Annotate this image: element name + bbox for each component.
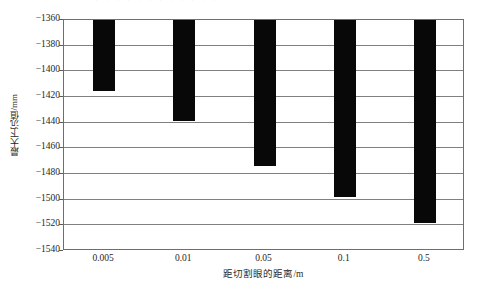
x-tick-label: 0.05 bbox=[229, 253, 299, 264]
chart-figure: · · · · · · · · · · · · 最大下沉值/mm −1360−1… bbox=[0, 0, 481, 289]
y-tick-label: −1380 bbox=[16, 40, 60, 50]
y-tick-label: −1360 bbox=[16, 14, 60, 24]
x-tick-label: 0.5 bbox=[389, 253, 459, 264]
y-tick-label: −1440 bbox=[16, 117, 60, 127]
gridline bbox=[64, 224, 463, 225]
bar bbox=[254, 20, 276, 166]
gridline bbox=[64, 199, 463, 200]
bar bbox=[334, 20, 356, 197]
y-tick-mark bbox=[59, 250, 63, 251]
x-axis-tick-labels: 0.0050.010.050.10.5 bbox=[63, 253, 464, 267]
bar bbox=[414, 20, 436, 223]
x-tick-label: 0.01 bbox=[148, 253, 218, 264]
x-tick-label: 0.1 bbox=[309, 253, 379, 264]
y-tick-label: −1540 bbox=[16, 245, 60, 255]
gridline bbox=[64, 173, 463, 174]
y-axis-tick-labels: −1360−1380−1400−1420−1440−1460−1480−1500… bbox=[14, 0, 60, 289]
x-axis-title: 距切割眼的距离/m bbox=[63, 268, 464, 280]
x-tick-label: 0.005 bbox=[68, 253, 138, 264]
plot-area bbox=[63, 19, 464, 250]
y-tick-label: −1460 bbox=[16, 142, 60, 152]
y-tick-label: −1400 bbox=[16, 65, 60, 75]
y-tick-label: −1520 bbox=[16, 219, 60, 229]
y-tick-label: −1500 bbox=[16, 194, 60, 204]
clipped-caption-remnant: · · · · · · · · · · · · bbox=[95, 0, 395, 5]
bar bbox=[173, 20, 195, 121]
y-tick-label: −1420 bbox=[16, 91, 60, 101]
y-tick-label: −1480 bbox=[16, 168, 60, 178]
bar bbox=[93, 20, 115, 91]
